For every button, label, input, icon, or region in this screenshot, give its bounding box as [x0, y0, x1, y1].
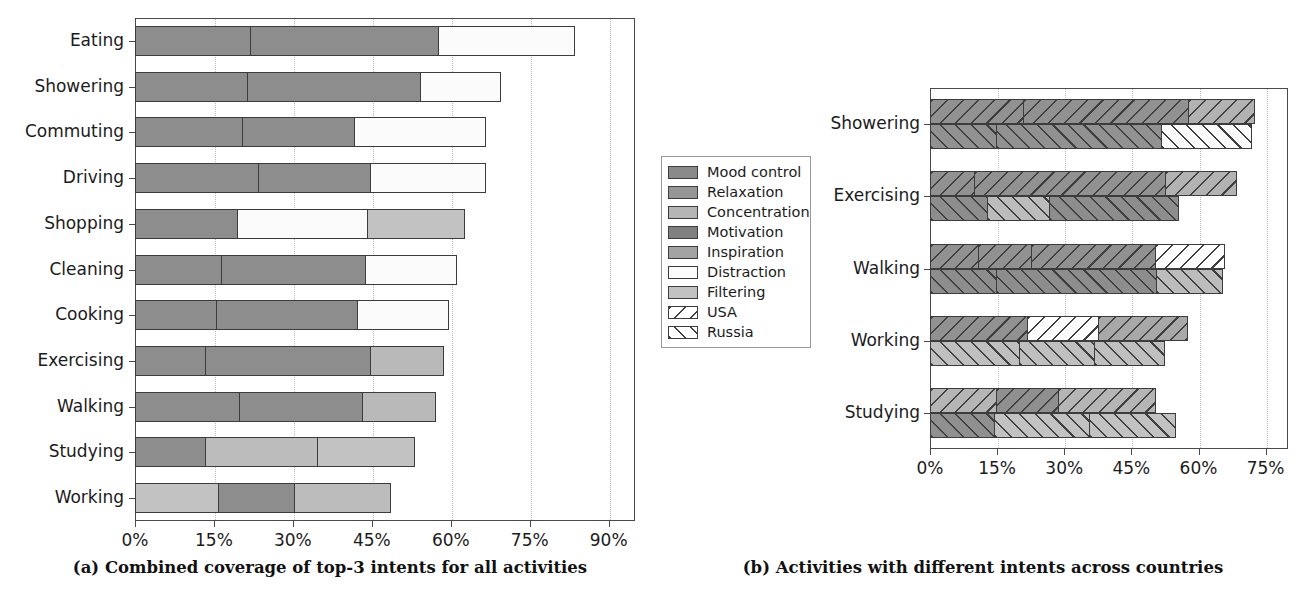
- bar-studying-usa: [930, 388, 1158, 413]
- bar-segment: [1031, 244, 1156, 269]
- bar-segment: [1155, 244, 1224, 269]
- bar-segment: [930, 124, 997, 149]
- bar-segment: [994, 413, 1090, 438]
- bar-segment: [1019, 341, 1095, 366]
- y-axis-label-showering: Showering: [730, 113, 920, 133]
- bar-segment: [996, 124, 1162, 149]
- bar-segment: [974, 171, 1166, 196]
- x-tick: [997, 449, 998, 455]
- x-tick: [1131, 449, 1132, 455]
- bar-exercising-usa: [930, 171, 1239, 196]
- y-axis-label-working: Working: [730, 330, 920, 350]
- bar-segment: [1023, 99, 1189, 124]
- bar-segment: [930, 388, 997, 413]
- bar-segment: [978, 244, 1032, 269]
- bar-segment: [930, 244, 979, 269]
- bar-segment: [987, 196, 1050, 221]
- bar-exercising-russia: [930, 196, 1181, 221]
- bar-segment: [1089, 413, 1176, 438]
- bar-segment: [930, 196, 988, 221]
- bar-segment: [996, 388, 1059, 413]
- bar-segment: [1098, 316, 1188, 341]
- x-tick: [1266, 449, 1267, 455]
- caption-b: (b) Activities with different intents ac…: [660, 558, 1306, 577]
- x-tick-label: 75%: [1226, 458, 1306, 478]
- bar-segment: [930, 99, 1024, 124]
- bar-segment: [1027, 316, 1099, 341]
- x-tick: [930, 449, 931, 455]
- bar-showering-russia: [930, 124, 1254, 149]
- bar-segment: [1094, 341, 1166, 366]
- bar-segment: [1165, 171, 1237, 196]
- bar-showering-usa: [930, 99, 1257, 124]
- x-tick: [1199, 449, 1200, 455]
- caption-a: (a) Combined coverage of top-3 intents f…: [0, 558, 660, 577]
- bar-working-usa: [930, 316, 1190, 341]
- x-tick: [1064, 449, 1065, 455]
- panel-b-countries: 0%15%30%45%60%75%ShoweringExercisingWalk…: [0, 0, 1306, 545]
- bar-segment: [1049, 196, 1179, 221]
- bar-segment: [930, 171, 975, 196]
- bar-segment: [1161, 124, 1253, 149]
- bar-segment: [930, 316, 1028, 341]
- bar-segment: [1058, 388, 1156, 413]
- gridline-x: [1267, 89, 1269, 448]
- bar-segment: [1188, 99, 1255, 124]
- figure-root: 0%15%30%45%60%75%90%EatingShoweringCommu…: [0, 0, 1306, 589]
- bar-studying-russia: [930, 413, 1178, 438]
- y-axis-label-exercising: Exercising: [730, 185, 920, 205]
- bar-walking-russia: [930, 269, 1225, 294]
- bar-segment: [930, 341, 1020, 366]
- bar-segment: [1156, 269, 1223, 294]
- bar-segment: [930, 413, 995, 438]
- bar-segment: [996, 269, 1157, 294]
- bar-walking-usa: [930, 244, 1228, 269]
- y-axis-label-studying: Studying: [730, 402, 920, 422]
- y-axis-label-walking: Walking: [730, 258, 920, 278]
- bar-working-russia: [930, 341, 1167, 366]
- bar-segment: [930, 269, 997, 294]
